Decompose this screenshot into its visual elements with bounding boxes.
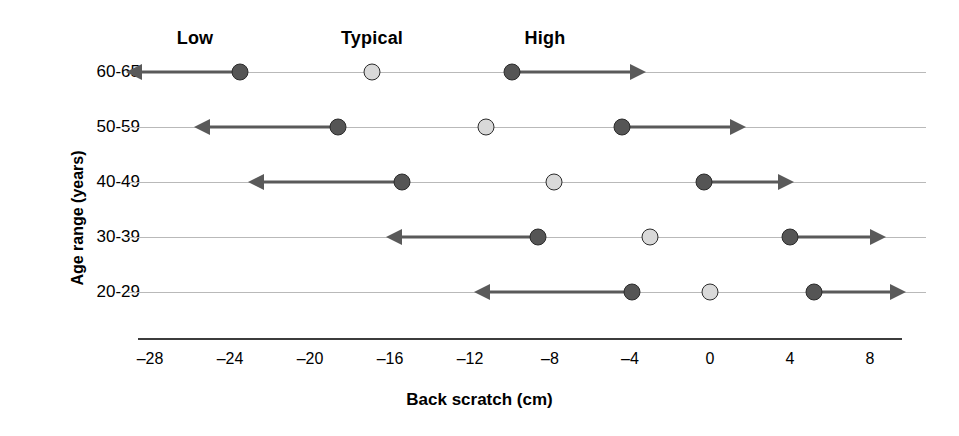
chart-container: Low Typical High Age range (years) 60-65… — [0, 0, 959, 436]
range-arrow-shaft — [622, 126, 730, 129]
data-point-high[interactable] — [696, 174, 713, 191]
data-point-typical[interactable] — [642, 229, 659, 246]
data-point-typical[interactable] — [702, 284, 719, 301]
x-axis-tick-label: 8 — [866, 350, 875, 368]
range-arrow-shaft — [704, 181, 778, 184]
range-arrow-shaft — [402, 236, 538, 239]
range-arrow-head — [630, 64, 646, 80]
x-axis-tick-label: 4 — [786, 350, 795, 368]
range-arrow-shaft — [512, 71, 630, 74]
data-point-low[interactable] — [330, 119, 347, 136]
range-arrow-shaft — [790, 236, 870, 239]
plot-area: –28–24–20–16–12–8–4048 — [140, 0, 959, 436]
range-arrow-head — [890, 284, 906, 300]
range-arrow-head — [730, 119, 746, 135]
x-axis-tick-label: –28 — [137, 350, 164, 368]
x-axis-tick-label: –24 — [217, 350, 244, 368]
y-axis-title: Age range (years) — [69, 150, 87, 285]
range-arrow-shaft — [264, 181, 402, 184]
range-arrow-head — [248, 174, 264, 190]
x-axis-title: Back scratch (cm) — [0, 390, 959, 410]
x-axis-tick-label: –4 — [621, 350, 639, 368]
x-axis-tick-label: 0 — [706, 350, 715, 368]
range-arrow-head — [870, 229, 886, 245]
data-point-low[interactable] — [530, 229, 547, 246]
range-arrow-shaft — [814, 291, 890, 294]
data-point-high[interactable] — [806, 284, 823, 301]
data-point-low[interactable] — [232, 64, 249, 81]
data-point-typical[interactable] — [546, 174, 563, 191]
x-axis-tick-label: –20 — [297, 350, 324, 368]
x-axis-tick-label: –12 — [457, 350, 484, 368]
x-axis-tick-label: –8 — [541, 350, 559, 368]
range-arrow-head — [126, 64, 142, 80]
range-arrow-head — [194, 119, 210, 135]
range-arrow-head — [474, 284, 490, 300]
range-arrow-shaft — [490, 291, 632, 294]
range-arrow-head — [386, 229, 402, 245]
data-point-high[interactable] — [782, 229, 799, 246]
data-point-low[interactable] — [394, 174, 411, 191]
range-arrow-shaft — [142, 71, 240, 74]
data-point-typical[interactable] — [364, 64, 381, 81]
range-arrow-head — [778, 174, 794, 190]
x-axis-tick-label: –16 — [377, 350, 404, 368]
data-point-typical[interactable] — [478, 119, 495, 136]
data-point-high[interactable] — [614, 119, 631, 136]
data-point-low[interactable] — [624, 284, 641, 301]
data-point-high[interactable] — [504, 64, 521, 81]
x-axis-line — [138, 338, 902, 340]
range-arrow-shaft — [210, 126, 338, 129]
